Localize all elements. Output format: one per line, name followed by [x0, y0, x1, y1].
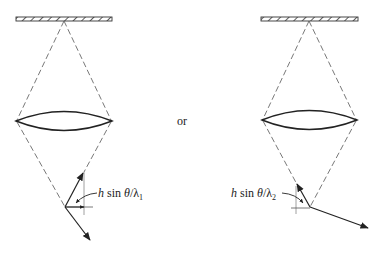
- grating-left: [16, 17, 112, 21]
- separator-or: or: [177, 114, 187, 128]
- lens-left: [16, 112, 112, 131]
- label-right: h sin θ/λ2: [231, 186, 276, 202]
- right-panel: h sin θ/λ2: [231, 17, 368, 228]
- label-left: h sin θ/λ1: [98, 186, 143, 202]
- optics-diagram: h sin θ/λ1 or h sin θ/λ2: [0, 0, 386, 255]
- left-panel: h sin θ/λ1: [16, 17, 143, 240]
- vector-up-right: [297, 184, 310, 207]
- dashed-ray-right-3: [263, 121, 300, 190]
- vector-down-left: [65, 207, 90, 240]
- leader-left: [76, 193, 97, 203]
- grating-right: [261, 17, 358, 21]
- leader-right: [282, 193, 303, 203]
- dashed-ray-right-4: [310, 121, 356, 207]
- vector-up-left: [65, 173, 83, 207]
- dashed-ray-left-4: [84, 122, 111, 172]
- dashed-ray-left-2: [64, 21, 111, 120]
- lens-right: [262, 111, 357, 130]
- dashed-ray-left-3: [17, 122, 65, 207]
- dashed-ray-left-1: [17, 21, 64, 120]
- dashed-ray-right-1: [263, 21, 309, 119]
- vector-down-right: [310, 207, 368, 228]
- dashed-ray-right-2: [309, 21, 356, 119]
